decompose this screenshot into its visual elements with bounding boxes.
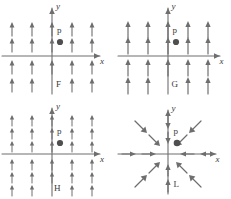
panel-L: x y p L [116,100,231,199]
panel-label-L: L [174,180,180,189]
panel-label-F: F [56,80,61,89]
panel-G: x y p G [116,0,231,99]
panel-H: x y p H [0,100,115,199]
point-marker-p [172,39,178,45]
panel-F-axes [2,8,100,94]
axis-label-x: x [100,57,104,66]
axis-label-y: y [172,2,176,11]
axis-label-x: x [216,155,220,164]
point-marker-p [57,139,63,145]
point-label-p: p [57,127,62,136]
point-marker-p [57,39,63,45]
panel-label-G: G [172,80,179,89]
point-label-p: p [57,26,62,35]
panel-label-H: H [54,184,61,193]
vector-field-figure: x y p F [0,0,231,199]
panel-F: x y p F [0,0,115,99]
axis-label-y: y [172,104,176,113]
axis-label-y: y [56,2,60,11]
axis-label-x: x [100,155,104,164]
point-label-p: p [173,26,178,35]
point-marker-p [173,139,180,146]
axis-label-y: y [56,102,60,111]
panel-H-axes [2,108,100,196]
panel-G-axes [118,8,220,94]
point-label-p: p [174,127,179,136]
axis-label-x: x [220,57,224,66]
